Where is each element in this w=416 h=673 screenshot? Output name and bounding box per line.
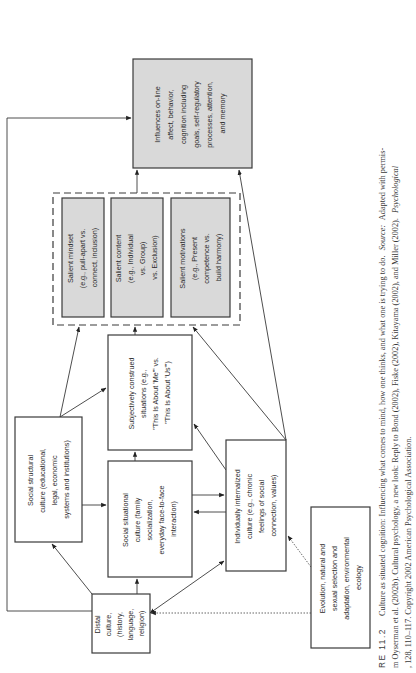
influences-line-5: processes, attention, <box>205 81 214 147</box>
node-influences: Influences on-line affect, behavior, cog… <box>133 59 252 168</box>
salient-content-line-4: vs. Exclusion) <box>150 235 159 279</box>
evolution-line-3: adaptation, environmental <box>342 537 351 620</box>
node-social-situational: Social situational culture (family socia… <box>108 461 192 577</box>
distal-line-4: language, <box>126 609 135 641</box>
distal-line-2: culture, <box>104 613 113 637</box>
node-individually-internalized: Individually internalized culture (e.g.,… <box>226 440 286 571</box>
culture-situated-cognition-diagram: Influences on-line affect, behavior, cog… <box>0 0 416 673</box>
distal-line-5: religion) <box>137 611 146 637</box>
evolution-line-4: ecology <box>354 565 363 590</box>
salient-content-line-1: Salient content <box>114 235 123 283</box>
caption-figure-number: RE 11.2 <box>377 628 387 668</box>
caption-journal: Psychological <box>391 165 400 214</box>
influences-line-3: cognition including <box>179 85 188 144</box>
situational-line-4: everyday face-to-face <box>157 485 166 554</box>
salient-content-line-2: (e.g., Individual <box>126 234 135 283</box>
salient-motivations-line-2: (e.g., Present <box>190 237 199 280</box>
node-salient-content: Salient content (e.g., Individual vs. Gr… <box>111 198 163 317</box>
salient-mindset-line-3: connect, inclusion) <box>90 228 99 288</box>
salient-mindset-line-1: Salient mindset <box>66 234 75 283</box>
connector-internalized-to-influences <box>239 170 286 440</box>
node-social-structural: Social structural culture (educational, … <box>15 417 82 542</box>
internalized-line-4: connection, values) <box>269 475 278 537</box>
caption-line-2: m Oyserman et al. (2002b). Cultural psyc… <box>391 165 400 668</box>
caption-citation: m Oyserman et al. (2002b). Cultural psyc… <box>391 218 400 668</box>
connector-internalized-to-salient <box>193 327 286 440</box>
salient-motivations-line-1: Salient motivations <box>178 228 187 289</box>
caption-line-3: , 128, 110–117. Copyright 2002 American … <box>404 437 413 668</box>
node-salient-motivations: Salient motivations (e.g., Present compe… <box>171 198 230 317</box>
evolution-line-1: Evolution, natural and <box>318 544 327 614</box>
internalized-line-1: Individually internalized <box>233 469 242 543</box>
structural-line-2: culture (educational, <box>38 448 47 513</box>
influences-line-1: Influences on-line <box>153 86 162 142</box>
connector-distal-to-structural <box>52 544 92 594</box>
structural-line-4: systems and institutions) <box>62 440 71 519</box>
situational-line-1: Social situational <box>121 493 130 547</box>
subjective-line-3: "This Is About 'Me'" vs. <box>151 357 160 430</box>
caption-line-1: RE 11.2 Culture as situated cognition: I… <box>377 148 387 668</box>
influences-line-4: goals, self-regulatory <box>192 81 201 148</box>
caption-source-label: Source: <box>378 225 387 251</box>
node-evolution: Evolution, natural and sexual selection … <box>311 507 370 648</box>
salient-mindset-line-2: (e.g., pull-apart vs. <box>78 229 87 289</box>
subjective-line-1: Subjectively construed <box>127 358 136 430</box>
salient-content-line-3: vs. Group) <box>138 242 147 276</box>
subjective-line-2: situations (e.g., <box>139 369 148 418</box>
internalized-line-2: culture (e.g., chronic <box>245 474 254 540</box>
situational-line-5: interaction) <box>169 501 178 537</box>
connector-structural-to-subjective <box>60 388 106 417</box>
subjective-line-4: "This Is About 'Us'") <box>163 361 172 424</box>
figure-caption: RE 11.2 Culture as situated cognition: I… <box>377 148 413 668</box>
distal-line-3: (history, <box>115 612 124 637</box>
structural-line-3: legal, economic <box>50 455 59 505</box>
evolution-line-2: sexual selection and <box>330 546 339 611</box>
node-subjectively-construed: Subjectively construed situations (e.g.,… <box>108 335 192 450</box>
distal-line-1: Distal <box>93 615 102 633</box>
caption-source-text: Adapted with permis- <box>378 148 387 221</box>
connector-internalized-to-subjective <box>194 424 226 470</box>
salient-motivations-line-4: build harmony) <box>214 234 223 282</box>
connector-structural-to-salient <box>60 327 79 417</box>
node-distal-culture: Distal culture, (history, language, reli… <box>92 594 150 653</box>
influences-line-2: affect, behavior, <box>166 89 175 140</box>
structural-line-1: Social structural <box>26 455 35 507</box>
svg-text:Salient mindset (e.g., p: Salient mindset (e.g., pull-apart vs. co… <box>66 227 99 289</box>
connector-evolution-to-internalized <box>288 536 311 567</box>
situational-line-2: culture (family <box>133 497 142 542</box>
salient-motivations-line-3: competence vs. <box>202 233 211 283</box>
internalized-line-3: feelings of social <box>257 480 266 534</box>
situational-line-3: socialization, <box>145 499 154 540</box>
influences-line-6: and memory <box>218 93 227 133</box>
caption-copyright: , 128, 110–117. Copyright 2002 American … <box>404 437 413 668</box>
node-salient-mindset: Salient mindset (e.g., pull-apart vs. co… <box>62 198 104 317</box>
caption-title: Culture as situated cognition: Influenci… <box>378 255 387 616</box>
